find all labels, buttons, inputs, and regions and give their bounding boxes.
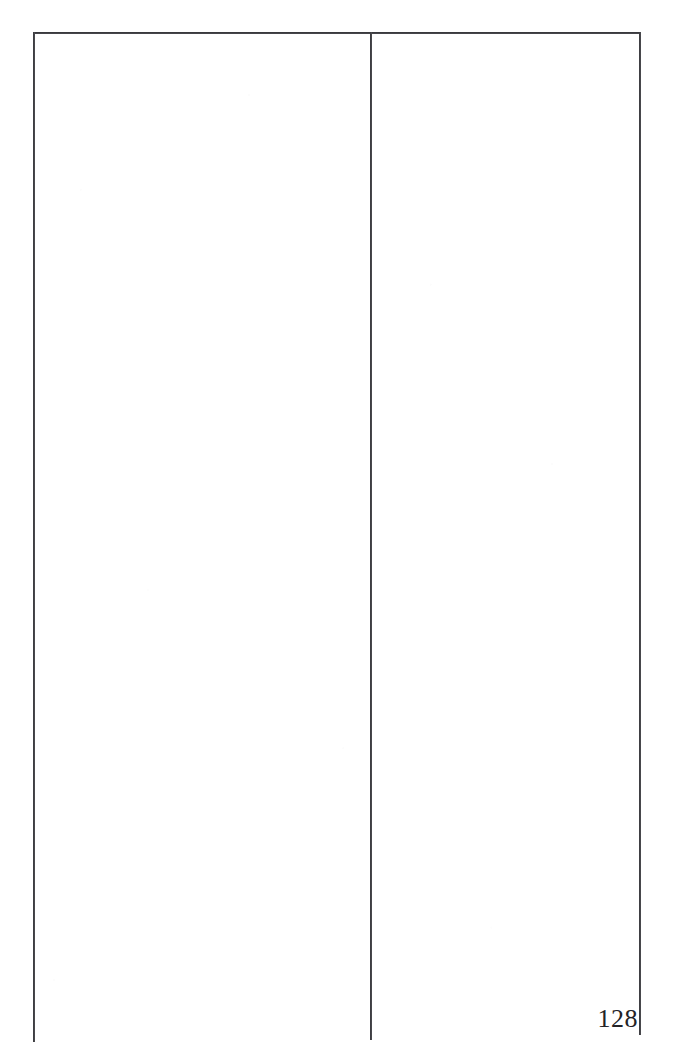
page-number: 128 xyxy=(598,1004,639,1034)
left-column-content xyxy=(35,34,370,1040)
right-column-content xyxy=(372,34,639,1040)
scanned-page: 128 xyxy=(0,0,673,1054)
table-right-rule xyxy=(639,32,641,1035)
